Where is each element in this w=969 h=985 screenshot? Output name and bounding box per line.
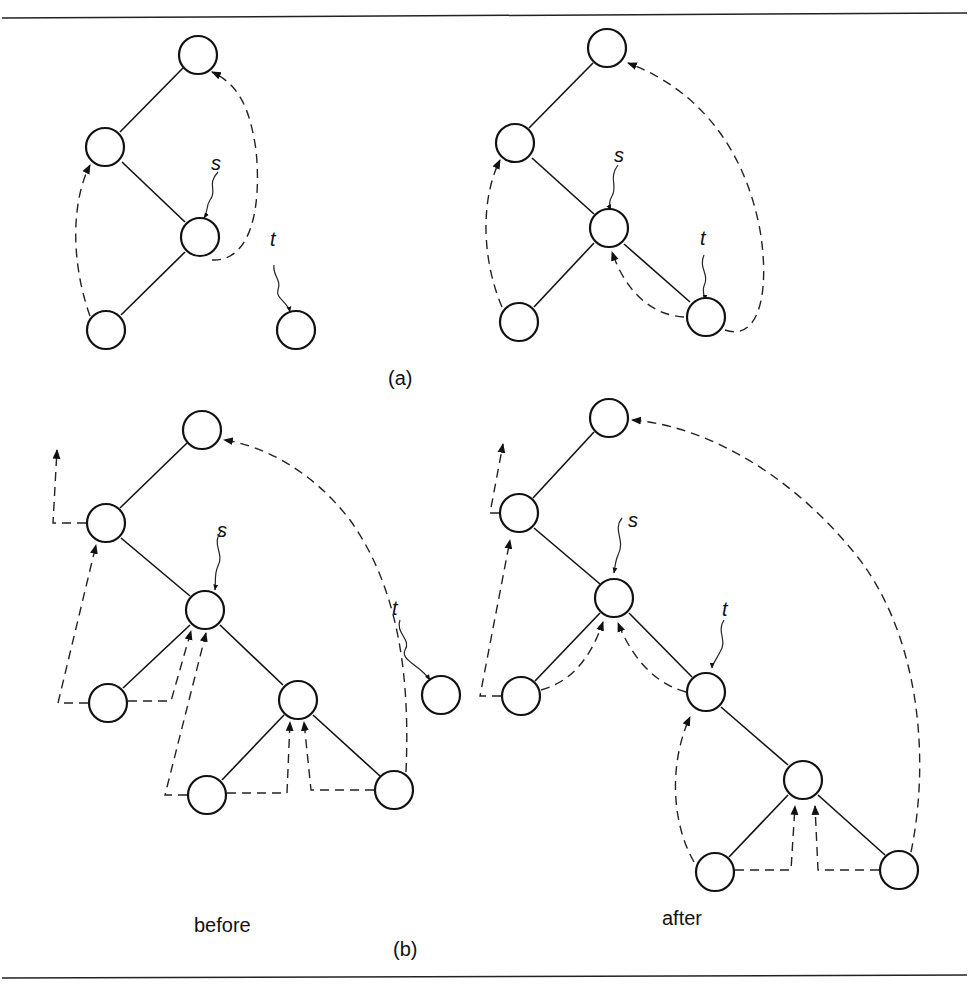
node-s (590, 209, 628, 247)
caption-before: before (194, 914, 251, 936)
node-t (277, 311, 315, 349)
tree-node (188, 776, 226, 814)
tree-node (375, 771, 413, 809)
bottom-rule (2, 975, 967, 978)
tree-node (179, 36, 217, 74)
tree-node (696, 853, 734, 891)
panel-b-after: s t after (480, 399, 920, 929)
label-t: t (270, 228, 277, 250)
tree-node (86, 128, 124, 166)
panel-b-label: (b) (393, 938, 417, 960)
node-s (181, 218, 219, 256)
node-t (687, 298, 725, 336)
tree-node (500, 303, 538, 341)
tree-node (500, 494, 538, 532)
label-t: t (722, 598, 729, 620)
tree-node (87, 311, 125, 349)
tree-node (183, 411, 221, 449)
top-rule (2, 13, 967, 18)
tree-node (784, 761, 822, 799)
tree-node (87, 504, 125, 542)
figure-canvas: s t s t (a) (0, 0, 969, 985)
node-t (687, 673, 725, 711)
node-s (595, 579, 633, 617)
label-s: s (614, 144, 624, 166)
tree-node (880, 851, 918, 889)
tree-node (89, 684, 127, 722)
tree-node (502, 677, 540, 715)
label-t: t (700, 227, 707, 249)
node-s (186, 591, 224, 629)
panel-a-before: s t (76, 36, 315, 349)
tree-node (496, 124, 534, 162)
panel-a-after: s t (486, 29, 764, 341)
panel-a-label: (a) (388, 367, 412, 389)
tree-node (588, 29, 626, 67)
panel-b-before: s t before (53, 411, 460, 936)
caption-after: after (662, 907, 702, 929)
tree-node (590, 399, 628, 437)
label-t: t (392, 597, 399, 619)
tree-node (279, 681, 317, 719)
label-s: s (628, 509, 638, 531)
node-t (422, 676, 460, 714)
label-s: s (217, 519, 227, 541)
label-s: s (211, 152, 221, 174)
